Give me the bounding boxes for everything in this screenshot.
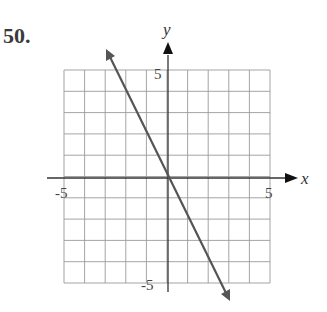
grid <box>64 70 270 283</box>
x-tick-5: 5 <box>265 185 273 201</box>
y-tick-5: 5 <box>154 66 162 82</box>
y-tick-neg5: -5 <box>141 277 154 293</box>
x-axis-arrow-icon <box>285 173 298 183</box>
coordinate-plane: x y -5 5 5 -5 <box>0 0 327 312</box>
y-axis-arrow-icon <box>163 42 173 54</box>
x-axis-label: x <box>300 169 309 188</box>
y-axis-label: y <box>161 20 171 39</box>
x-tick-neg5: -5 <box>55 185 68 201</box>
